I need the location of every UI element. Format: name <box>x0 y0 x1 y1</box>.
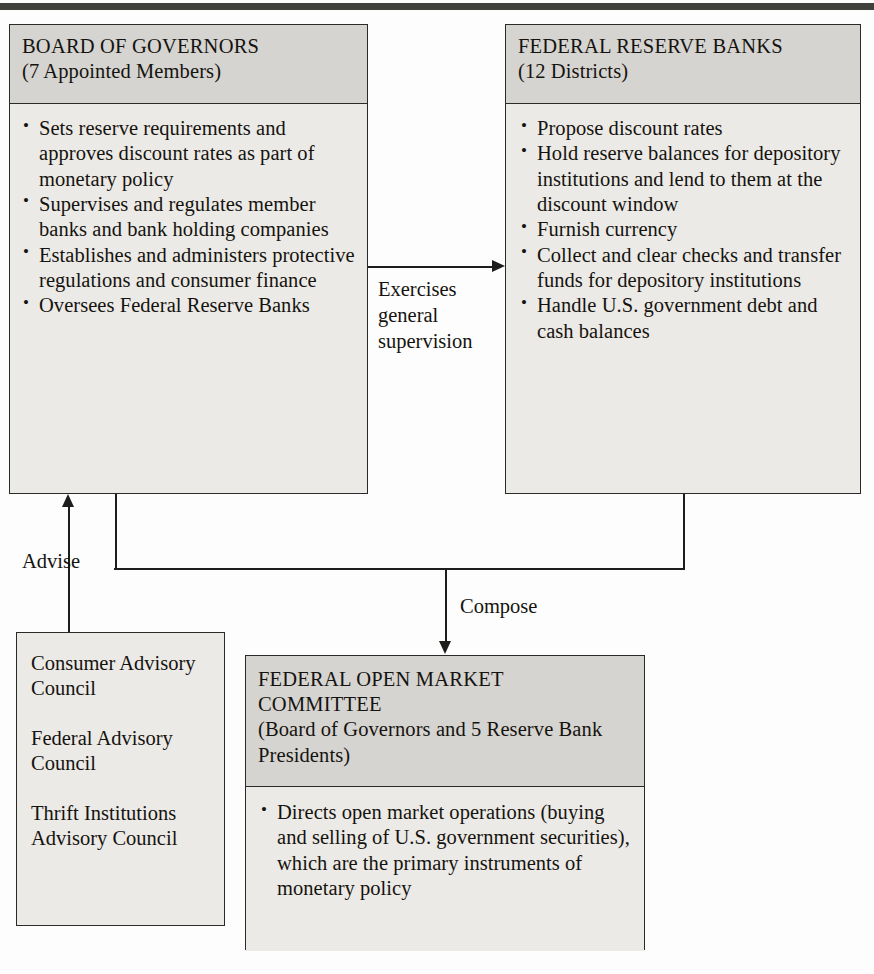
fomc-bullet-list: Directs open market operations (buying a… <box>260 800 634 901</box>
fed-structure-diagram: BOARD OF GOVERNORS (7 Appointed Members)… <box>0 0 874 974</box>
board-of-governors-body: Sets reserve requirements and approves d… <box>10 104 367 492</box>
list-item: Federal Advisory Council <box>31 726 214 777</box>
arrowhead-bus-to-fomc <box>439 641 451 654</box>
board-of-governors-box: BOARD OF GOVERNORS (7 Appointed Members)… <box>9 24 368 494</box>
list-item: Consumer Advisory Council <box>31 651 214 702</box>
fomc-title-line1: FEDERAL OPEN MARKET <box>258 667 632 692</box>
edge-label-compose: Compose <box>460 593 537 619</box>
list-item: Collect and clear checks and transfer fu… <box>520 243 850 294</box>
connector-board-down-stub <box>115 494 117 568</box>
connector-banks-down-stub <box>683 494 685 568</box>
connector-compose-bus <box>114 568 685 570</box>
board-of-governors-title: BOARD OF GOVERNORS <box>22 34 355 59</box>
list-item: Furnish currency <box>520 217 850 242</box>
federal-reserve-banks-subtitle: (12 Districts) <box>518 59 848 84</box>
connector-bus-to-fomc <box>445 568 447 642</box>
federal-reserve-banks-bullet-list: Propose discount rates Hold reserve bala… <box>520 116 850 344</box>
federal-reserve-banks-box: FEDERAL RESERVE BANKS (12 Districts) Pro… <box>505 24 861 494</box>
list-item: Thrift Institutions Advisory Council <box>31 801 214 852</box>
federal-reserve-banks-body: Propose discount rates Hold reserve bala… <box>506 104 860 492</box>
board-of-governors-header: BOARD OF GOVERNORS (7 Appointed Members) <box>10 25 367 104</box>
top-rule-divider <box>0 3 874 10</box>
board-of-governors-bullet-list: Sets reserve requirements and approves d… <box>22 116 357 319</box>
board-of-governors-subtitle: (7 Appointed Members) <box>22 59 355 84</box>
edge-label-exercises-general-supervision: Exercises general supervision <box>378 276 508 354</box>
fomc-title-line2: COMMITTEE <box>258 692 632 717</box>
list-item: Directs open market operations (buying a… <box>260 800 634 901</box>
advisory-councils-box: Consumer Advisory Council Federal Adviso… <box>16 632 225 926</box>
advisory-councils-body: Consumer Advisory Council Federal Adviso… <box>17 633 224 925</box>
arrowhead-board-to-banks <box>492 260 505 272</box>
edge-label-advise: Advise <box>22 548 80 574</box>
list-item: Oversees Federal Reserve Banks <box>22 293 357 318</box>
fomc-box: FEDERAL OPEN MARKET COMMITTEE (Board of … <box>245 655 645 950</box>
federal-reserve-banks-title: FEDERAL RESERVE BANKS <box>518 34 848 59</box>
list-item: Supervises and regulates member banks an… <box>22 192 357 243</box>
list-item: Hold reserve balances for depository ins… <box>520 141 850 217</box>
fomc-subtitle: (Board of Governors and 5 Reserve Bank P… <box>258 717 632 767</box>
list-item: Sets reserve requirements and approves d… <box>22 116 357 192</box>
fomc-body: Directs open market operations (buying a… <box>246 787 644 951</box>
arrowhead-advisory-to-board <box>62 494 74 507</box>
federal-reserve-banks-header: FEDERAL RESERVE BANKS (12 Districts) <box>506 25 860 104</box>
list-item: Handle U.S. government debt and cash bal… <box>520 293 850 344</box>
list-item: Propose discount rates <box>520 116 850 141</box>
connector-board-to-banks <box>368 266 492 268</box>
list-item: Establishes and administers protective r… <box>22 243 357 294</box>
fomc-header: FEDERAL OPEN MARKET COMMITTEE (Board of … <box>246 656 644 787</box>
